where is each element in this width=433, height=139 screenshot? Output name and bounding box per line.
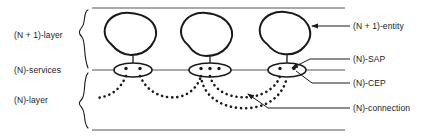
entity-blob-2 bbox=[181, 13, 232, 56]
cep-dot bbox=[208, 67, 211, 70]
label-n-cep: (N)-CEP bbox=[353, 79, 386, 88]
label-n-sap: (N)-SAP bbox=[353, 55, 385, 64]
entity-blob-3 bbox=[260, 12, 310, 54]
cep-dot bbox=[217, 67, 220, 70]
brace-n-layer bbox=[79, 73, 88, 128]
connection-dangling-left bbox=[96, 76, 126, 98]
connection-2-3-lower bbox=[201, 76, 287, 108]
label-n-connection: (N)-connection bbox=[353, 104, 410, 113]
sap-ellipse-1 bbox=[114, 63, 152, 77]
brace-n1-layer bbox=[79, 10, 88, 68]
cep-dot bbox=[124, 67, 127, 70]
sap-ellipse-3 bbox=[268, 63, 306, 77]
connection-2-3-upper bbox=[210, 76, 280, 97]
entity-blob-1 bbox=[105, 13, 156, 55]
label-n-services: (N)-services bbox=[14, 66, 61, 75]
label-n1-layer: (N + 1)-layer bbox=[14, 31, 63, 40]
cep-dot bbox=[278, 67, 281, 70]
label-n-layer: (N)-layer bbox=[14, 96, 48, 105]
leader-n-connection bbox=[248, 94, 350, 108]
label-n1-entity: (N + 1)-entity bbox=[353, 22, 404, 31]
connection-1-2 bbox=[140, 76, 201, 97]
cep-dot bbox=[138, 67, 141, 70]
diagram-canvas: (N + 1)-layer (N)-services (N)-layer (N … bbox=[0, 0, 433, 139]
cep-dot bbox=[199, 67, 202, 70]
